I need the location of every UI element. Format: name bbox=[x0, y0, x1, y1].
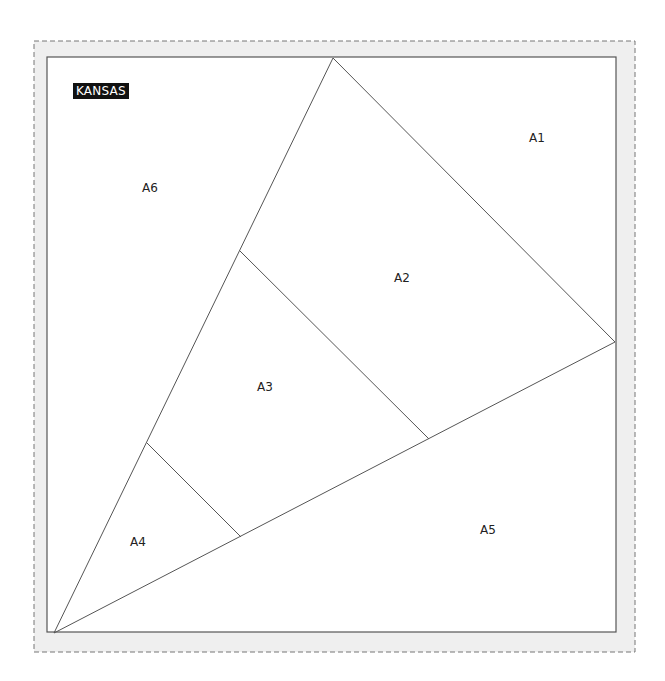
piece-label-a4: A4 bbox=[130, 535, 146, 549]
block-name-badge: KANSAS bbox=[73, 83, 129, 99]
pattern-diagram bbox=[0, 0, 665, 681]
piece-label-a1: A1 bbox=[529, 131, 545, 145]
piece-label-a2: A2 bbox=[394, 271, 410, 285]
piece-label-a5: A5 bbox=[480, 523, 496, 537]
piece-label-a6: A6 bbox=[142, 181, 158, 195]
piece-label-a3: A3 bbox=[257, 380, 273, 394]
